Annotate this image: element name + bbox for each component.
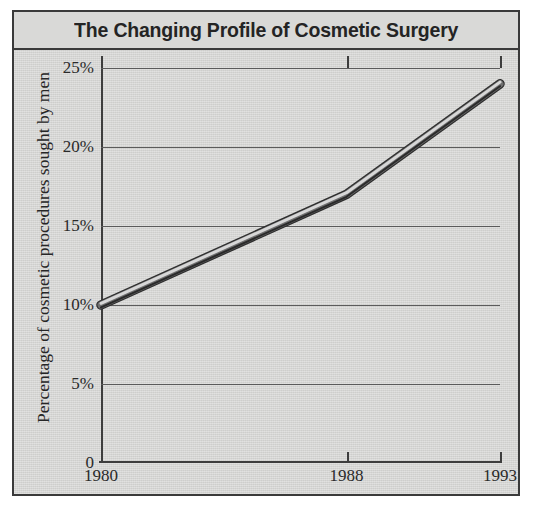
x-tick-label: 1980 [84, 466, 118, 486]
gridline-15% [101, 226, 500, 227]
x-tick-label: 1988 [330, 466, 364, 486]
x-tick-mark-top [347, 56, 349, 68]
y-tick-label: 5% [71, 374, 94, 394]
plot-area: 05%10%15%20%25% 198019881993 [101, 68, 500, 463]
chart-title: The Changing Profile of Cosmetic Surgery [74, 18, 458, 42]
y-axis-line [101, 56, 103, 463]
data-series-line [91, 54, 511, 474]
x-tick-mark [347, 452, 349, 463]
figure-frame: The Changing Profile of Cosmetic Surgery… [12, 10, 520, 496]
gridline-25% [101, 68, 500, 69]
x-tick-label: 1993 [483, 466, 517, 486]
title-band: The Changing Profile of Cosmetic Surgery [14, 12, 518, 50]
y-tick-label: 15% [63, 216, 94, 236]
gridline-5% [101, 384, 500, 385]
y-tick-label: 25% [63, 58, 94, 78]
y-axis-title-text: Percentage of cosmetic procedures sought… [33, 72, 54, 423]
x-axis-line [99, 461, 502, 463]
x-tick-mark-top [500, 56, 502, 68]
gridline-20% [101, 147, 500, 148]
y-tick-label: 10% [63, 295, 94, 315]
chart-screenshot: The Changing Profile of Cosmetic Surgery… [0, 0, 536, 510]
y-axis-title: Percentage of cosmetic procedures sought… [30, 12, 56, 482]
x-tick-mark [500, 452, 502, 463]
gridline-10% [101, 305, 500, 306]
x-tick-mark [101, 452, 103, 463]
y-tick-label: 20% [63, 137, 94, 157]
